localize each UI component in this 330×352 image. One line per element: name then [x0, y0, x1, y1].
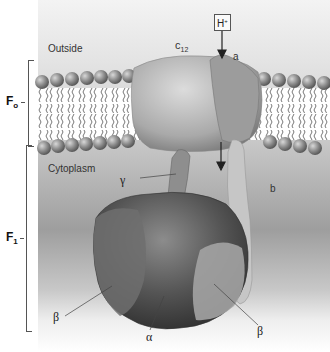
fo-bracket-tick — [21, 102, 25, 103]
atp-synthase-diagram: Outside Cytoplasm Fo F1 H+ c12 a b γ β α… — [0, 0, 330, 352]
proton-label: H+ — [214, 14, 231, 31]
subunit-a-label: a — [233, 51, 239, 62]
cytoplasm-label: Cytoplasm — [48, 163, 95, 174]
beta-right-lobe — [193, 242, 245, 320]
gamma-label: γ — [120, 173, 125, 188]
proton-arrow-down — [218, 28, 226, 58]
beta-left-label: β — [53, 310, 59, 325]
beta-right-label: β — [257, 324, 263, 339]
fo-bracket — [28, 60, 34, 147]
f1-bracket — [26, 145, 32, 332]
alpha-label: α — [146, 330, 152, 345]
beta-left-leader — [65, 286, 112, 316]
outside-label: Outside — [48, 43, 82, 54]
c12-label: c12 — [175, 39, 188, 53]
f1-bracket-tick — [20, 238, 24, 239]
f1-label: F1 — [6, 230, 18, 246]
fo-label: Fo — [6, 94, 18, 110]
subunit-b-label: b — [270, 183, 276, 194]
